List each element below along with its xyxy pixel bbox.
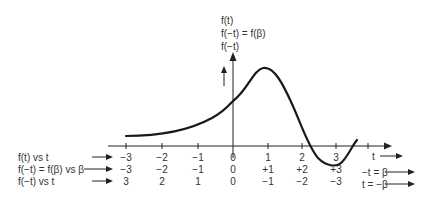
right-label-t-eq-neg-beta: t = −β: [362, 179, 388, 190]
value: +2: [290, 164, 314, 175]
up-arrow-icon: [221, 66, 227, 73]
value: −2: [150, 152, 174, 163]
row-label-f-beta-vs-beta: f(−t) = f(β) vs β: [18, 164, 84, 175]
x-axis-arrowhead-icon: [384, 143, 392, 150]
row-label-f-t-vs-t: f(t) vs t: [18, 152, 49, 163]
value: 0: [221, 176, 245, 187]
time-reversal-diagram: f(t) f(−t) = f(β) f(−t) t −t = β t = −β …: [0, 0, 436, 200]
value: −1: [186, 164, 210, 175]
value: −3: [114, 152, 138, 163]
x-axis-label-t: t: [372, 151, 375, 162]
row-arrow-icon-3: [106, 178, 113, 184]
value: 1: [186, 176, 210, 187]
t-neg-beta-arrow-icon: [408, 181, 415, 187]
value: −1: [256, 176, 280, 187]
neg-t-beta-arrow-icon: [408, 169, 415, 175]
value: −3: [114, 164, 138, 175]
value: +1: [256, 164, 280, 175]
y-label-f-t: f(t): [221, 15, 233, 26]
y-label-f-neg-t-eq-f-beta: f(−t) = f(β): [221, 28, 266, 39]
value: 2: [150, 176, 174, 187]
signal-curve: [126, 68, 357, 166]
value: 3: [324, 152, 348, 163]
y-axis-arrowhead-icon: [230, 52, 237, 61]
value: 2: [290, 152, 314, 163]
row-label-f-neg-t-vs-t: f(−t) vs t: [18, 176, 54, 187]
value: 3: [114, 176, 138, 187]
value: 0: [221, 164, 245, 175]
right-label-neg-t-eq-beta: −t = β: [362, 167, 388, 178]
row-arrow-icon-1: [106, 154, 113, 160]
value: +3: [324, 164, 348, 175]
t-arrow-icon: [396, 153, 403, 159]
y-label-f-neg-t: f(−t): [221, 41, 239, 52]
value: −2: [290, 176, 314, 187]
value: 1: [256, 152, 280, 163]
value: 0: [221, 152, 245, 163]
value: −1: [186, 152, 210, 163]
value: −3: [324, 176, 348, 187]
row-arrow-icon-2: [106, 166, 113, 172]
value: −2: [150, 164, 174, 175]
